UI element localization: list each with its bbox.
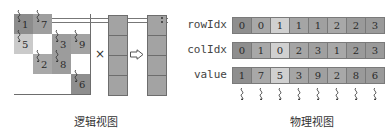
result-cell (147, 75, 167, 96)
array-cell: 1 (308, 17, 328, 34)
matrix-value: 7 (41, 19, 47, 30)
array-cell: 5 (270, 67, 290, 84)
array-cell: 0 (232, 17, 252, 34)
array-cell: 2 (327, 67, 347, 84)
vector-cell (108, 75, 128, 96)
thread-icon (296, 88, 302, 100)
matrix-cell-empty (14, 54, 34, 75)
result-dot (161, 21, 163, 23)
array-cell: 2 (346, 17, 366, 34)
logical-view-caption: 逻辑视图 (74, 113, 118, 129)
matrix-cell-empty (33, 74, 53, 95)
array-cell: 3 (308, 42, 328, 59)
matrix-value: 9 (79, 39, 85, 50)
array-label-colidx: colIdx (187, 43, 227, 56)
physical-view: rowIdx00111223colIdx01023123value1753928… (180, 0, 391, 134)
matrix-cell-nonzero: 2 (33, 54, 53, 75)
matrix-cell-nonzero: 7 (33, 14, 53, 35)
array-cell: 1 (327, 42, 347, 59)
result-vector (147, 15, 167, 95)
matrix-value: 1 (22, 19, 28, 30)
array-cell: 1 (289, 17, 309, 34)
array-cell: 0 (232, 42, 252, 59)
thread-icon (353, 88, 359, 100)
thread-icon (258, 88, 264, 100)
array-cell: 2 (289, 42, 309, 59)
array-label-value: value (194, 68, 227, 81)
array-cell: 3 (365, 42, 385, 59)
vector-cell (108, 55, 128, 76)
vector-cell (108, 35, 128, 56)
matrix-cell-empty (52, 74, 72, 95)
multiply-icon: × (95, 47, 105, 61)
matrix-cell-nonzero: 8 (52, 54, 72, 75)
array-cell: 3 (365, 17, 385, 34)
result-cell (147, 55, 167, 76)
thread-icon (239, 88, 245, 100)
matrix-value: 8 (60, 59, 66, 70)
array-cell: 1 (232, 67, 252, 84)
matrix-value: 3 (60, 39, 66, 50)
array-cell: 6 (365, 67, 385, 84)
arrow-right-icon (130, 49, 144, 60)
matrix-cell-nonzero: 5 (14, 34, 34, 55)
array-cell: 2 (327, 17, 347, 34)
matrix-cell-nonzero: 9 (71, 34, 91, 55)
result-dot (161, 17, 163, 19)
vector-cell (108, 15, 128, 36)
thread-icon (277, 88, 283, 100)
matrix-value: 2 (41, 59, 47, 70)
thread-icon (372, 88, 378, 100)
thread-icon (315, 88, 321, 100)
result-cell (147, 15, 167, 36)
array-cell: 1 (270, 17, 290, 34)
result-cell (147, 35, 167, 56)
array-cell: 0 (270, 42, 290, 59)
array-label-rowidx: rowIdx (187, 18, 227, 31)
thread-icon (334, 88, 340, 100)
matrix-cell-empty (14, 74, 34, 95)
matrix-cell-nonzero: 6 (71, 74, 91, 95)
array-cell: 7 (251, 67, 271, 84)
array-cell: 1 (251, 42, 271, 59)
dense-vector (108, 15, 128, 95)
matrix-value: 5 (22, 39, 28, 50)
array-cell: 2 (346, 42, 366, 59)
physical-view-caption: 物理视图 (290, 113, 334, 129)
array-cell: 3 (289, 67, 309, 84)
logical-view: 17539286 × 逻辑视图 (0, 0, 180, 134)
matrix-value: 6 (79, 79, 85, 90)
array-cell: 8 (346, 67, 366, 84)
array-cell: 9 (308, 67, 328, 84)
array-cell: 0 (251, 17, 271, 34)
sparse-matrix: 17539286 (14, 14, 90, 95)
